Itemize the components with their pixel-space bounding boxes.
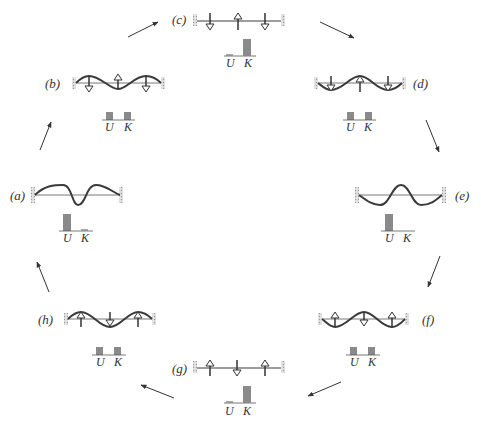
- panel-f: (f) U K: [318, 312, 434, 369]
- u-bar: [63, 214, 71, 231]
- k-bar: [368, 347, 375, 355]
- arrow-c-to-d: [320, 22, 354, 38]
- arrow-a-to-b: [40, 122, 51, 150]
- panel-g: (g) U K: [172, 360, 285, 418]
- u-bar: [347, 112, 354, 120]
- panel-label: (a): [10, 188, 25, 203]
- velocity-arrow-up: [356, 76, 364, 92]
- arrow-h-to-a: [37, 262, 49, 292]
- k-bar: [114, 347, 121, 355]
- k-label: K: [402, 231, 412, 245]
- k-label: K: [363, 120, 373, 134]
- right-wall: [161, 77, 165, 89]
- panel-label: (e): [455, 188, 469, 203]
- left-wall: [318, 313, 322, 325]
- left-wall: [314, 77, 318, 89]
- panel-d: (d) U K: [314, 76, 428, 134]
- arrow-d-to-e: [426, 120, 439, 152]
- right-wall: [152, 313, 156, 325]
- u-bar: [96, 347, 103, 355]
- right-wall: [281, 14, 285, 26]
- u-label: U: [96, 355, 106, 369]
- right-wall: [281, 361, 285, 373]
- panel-label: (g): [172, 361, 187, 376]
- k-label: K: [243, 56, 253, 70]
- panel-label: (c): [172, 12, 186, 27]
- k-label: K: [123, 120, 133, 134]
- right-wall: [405, 313, 409, 325]
- panel-label: (d): [413, 76, 428, 91]
- panel-label: (h): [38, 312, 53, 327]
- k-label: K: [367, 355, 377, 369]
- right-wall: [442, 187, 446, 203]
- velocity-arrow-up: [388, 312, 396, 327]
- left-wall: [64, 313, 68, 325]
- arrow-g-to-h: [141, 385, 174, 398]
- u-label: U: [105, 120, 115, 134]
- left-wall: [31, 187, 35, 203]
- standing-wave-energy-diagram: (a) U K (b) U K: [0, 0, 481, 425]
- u-label: U: [225, 404, 235, 418]
- panel-label: (b): [45, 76, 60, 91]
- left-wall: [193, 361, 197, 373]
- velocity-arrow-down: [142, 76, 150, 92]
- k-bar: [243, 386, 251, 403]
- k-label: K: [80, 231, 90, 245]
- k-label: K: [242, 404, 252, 418]
- left-wall: [355, 187, 359, 203]
- panel-e: (e) U K: [355, 185, 469, 245]
- u-bar: [385, 214, 393, 231]
- k-label: K: [113, 355, 123, 369]
- left-wall: [193, 14, 197, 26]
- left-wall: [72, 77, 76, 89]
- k-bar: [124, 112, 131, 120]
- u-label: U: [350, 355, 360, 369]
- u-bar: [350, 347, 357, 355]
- k-bar: [365, 112, 372, 120]
- panel-b: (b) U K: [45, 74, 165, 134]
- panel-c: (c) U K: [172, 12, 285, 70]
- u-bar: [106, 112, 113, 120]
- right-wall: [402, 77, 406, 89]
- velocity-arrow-up: [77, 312, 85, 327]
- u-label: U: [385, 231, 395, 245]
- panel-label: (f): [422, 312, 434, 327]
- k-bar: [243, 39, 251, 56]
- velocity-arrow-down: [85, 76, 93, 92]
- arrow-f-to-g: [308, 382, 341, 396]
- arrow-e-to-f: [428, 256, 440, 287]
- u-label: U: [226, 56, 236, 70]
- velocity-arrow-up: [134, 312, 142, 327]
- u-label: U: [346, 120, 356, 134]
- arrow-b-to-c: [128, 22, 158, 37]
- u-label: U: [63, 231, 73, 245]
- velocity-arrow-up: [331, 312, 339, 327]
- panel-a: (a) U K: [10, 185, 123, 245]
- velocity-arrow-up: [114, 74, 122, 89]
- panel-h: (h) U K: [38, 312, 156, 369]
